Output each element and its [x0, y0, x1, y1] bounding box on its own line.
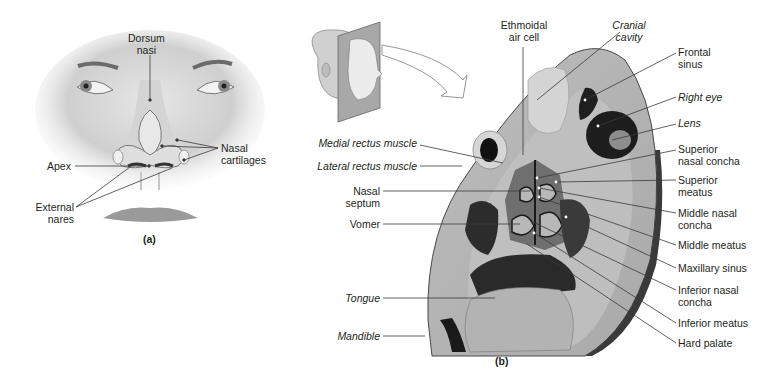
label-line: Middle nasal [678, 207, 737, 219]
label-line: cartilages [221, 154, 266, 166]
label-line: nasal concha [678, 155, 740, 167]
label-inferior-nasal-concha: Inferior nasal concha [678, 284, 739, 308]
panel-label-a: (a) [143, 233, 156, 245]
label-mandible: Mandible [320, 330, 380, 342]
label-dorsum-nasi: Dorsum nasi [128, 32, 165, 56]
label-middle-nasal-concha: Middle nasal concha [678, 207, 737, 231]
orientation-inset-head [312, 22, 467, 122]
label-line: meatus [678, 186, 718, 198]
label-medial-rectus-muscle: Medial rectus muscle [300, 137, 417, 149]
figure-artwork [0, 0, 776, 381]
label-superior-meatus: Superior meatus [678, 174, 718, 198]
label-lens: Lens [678, 117, 701, 129]
label-inferior-meatus: Inferior meatus [678, 317, 748, 329]
label-hard-palate: Hard palate [678, 337, 732, 349]
label-line: Cranial [607, 19, 651, 31]
label-external-nares: External nares [34, 201, 74, 225]
label-line: sinus [678, 58, 711, 70]
label-line: cavity [607, 31, 651, 43]
label-frontal-sinus: Frontal sinus [678, 46, 711, 70]
label-right-eye: Right eye [678, 91, 722, 103]
label-line: concha [678, 296, 739, 308]
label-line: concha [678, 219, 737, 231]
label-line: Nasal [221, 142, 266, 154]
label-line: Inferior nasal [678, 284, 739, 296]
face-illustration [35, 30, 265, 222]
label-line: Superior [678, 143, 740, 155]
label-line: Superior [678, 174, 718, 186]
label-vomer: Vomer [330, 218, 380, 230]
label-line: Ethmoidal [497, 19, 551, 31]
label-cranial-cavity: Cranial cavity [607, 19, 651, 43]
label-line: Dorsum [128, 32, 165, 44]
figure-nose-anatomy: Dorsum nasi Nasal cartilages Apex Extern… [0, 0, 776, 381]
label-apex: Apex [47, 160, 71, 172]
upper-lip [103, 207, 198, 222]
label-ethmoidal-air-cell: Ethmoidal air cell [497, 19, 551, 43]
label-line: nasi [128, 44, 165, 56]
label-line: septum [330, 197, 380, 209]
label-line: nares [34, 213, 74, 225]
curved-arrow [382, 45, 467, 98]
label-line: Frontal [678, 46, 711, 58]
label-nasal-septum: Nasal septum [330, 185, 380, 209]
label-nasal-cartilages: Nasal cartilages [221, 142, 266, 166]
label-tongue: Tongue [330, 292, 380, 304]
tongue-region [465, 288, 573, 352]
label-middle-meatus: Middle meatus [678, 239, 746, 251]
label-line: Nasal [330, 185, 380, 197]
label-superior-nasal-concha: Superior nasal concha [678, 143, 740, 167]
label-maxillary-sinus: Maxillary sinus [678, 262, 747, 274]
panel-label-b: (b) [495, 355, 508, 367]
label-line: air cell [497, 31, 551, 43]
label-line: External [34, 201, 74, 213]
label-lateral-rectus-muscle: Lateral rectus muscle [300, 160, 417, 172]
